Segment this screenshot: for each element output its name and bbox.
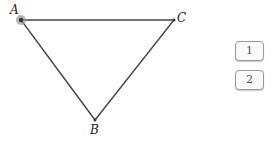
button-1[interactable]: 1: [235, 41, 264, 61]
triangle-abc: [21, 20, 174, 120]
label-a: A: [10, 4, 19, 16]
triangle-canvas[interactable]: [0, 0, 271, 143]
label-c: C: [177, 12, 186, 24]
point-c[interactable]: [173, 19, 176, 22]
point-b[interactable]: [94, 119, 97, 122]
point-a[interactable]: [19, 18, 23, 22]
label-b: B: [90, 124, 99, 136]
button-2[interactable]: 2: [235, 70, 264, 90]
